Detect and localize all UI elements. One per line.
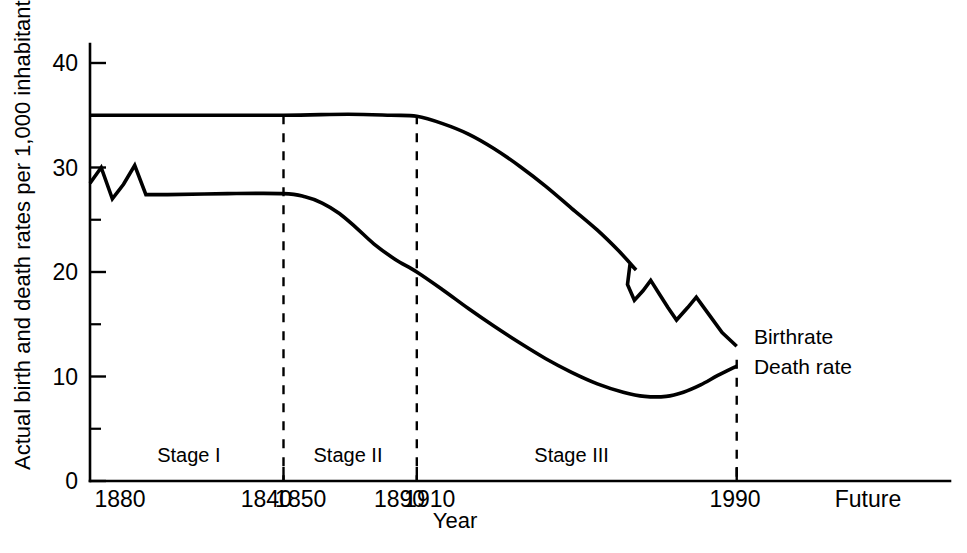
stage-divider-lines <box>284 115 737 481</box>
stage-label-1: Stage I <box>157 444 220 466</box>
demographic-transition-chart: 010203040 188018401850189019101990Future… <box>0 0 967 553</box>
x-axis-group: 188018401850189019101990Future <box>90 467 950 512</box>
y-axis-group: 010203040 <box>52 44 106 494</box>
series-line-death-rate <box>90 165 737 396</box>
series-line-birthrate <box>90 114 737 346</box>
x-tick-label: Future <box>835 486 901 512</box>
series-label-death-rate: Death rate <box>754 355 852 378</box>
x-tick-label: 1990 <box>709 486 760 512</box>
chart-container: 010203040 188018401850189019101990Future… <box>0 0 967 553</box>
y-tick-label: 10 <box>52 364 78 390</box>
y-tick-label: 30 <box>52 155 78 181</box>
series-labels-group: BirthrateDeath rate <box>754 325 852 378</box>
stage-label-2: Stage II <box>314 444 383 466</box>
stage-labels-group: Stage IStage IIStage III <box>157 444 609 466</box>
series-lines-group <box>90 114 737 397</box>
x-tick-label: 1880 <box>94 486 145 512</box>
stage-label-3: Stage III <box>534 444 609 466</box>
x-axis-title: Year <box>433 508 477 533</box>
x-tick-label: 1850 <box>275 486 326 512</box>
y-axis-title: Actual birth and death rates per 1,000 i… <box>10 0 35 470</box>
y-tick-label: 0 <box>65 468 78 494</box>
y-axis-major-ticks <box>90 63 106 481</box>
y-tick-label: 20 <box>52 259 78 285</box>
y-tick-label: 40 <box>52 50 78 76</box>
series-label-birthrate: Birthrate <box>754 325 833 348</box>
y-axis-tick-labels: 010203040 <box>52 50 78 494</box>
x-axis-ticks <box>284 467 737 481</box>
x-axis-tick-labels: 188018401850189019101990Future <box>94 486 901 512</box>
